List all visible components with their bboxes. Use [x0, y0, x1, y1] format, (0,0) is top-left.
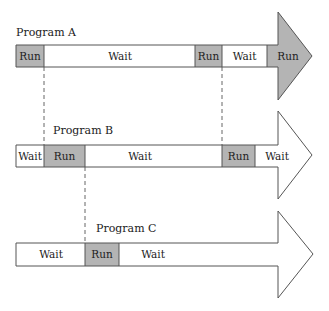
- segment-label: Wait: [265, 150, 289, 162]
- program-c-label: Program C: [96, 222, 156, 235]
- program-b-label: Program B: [53, 124, 113, 137]
- segment-label: Run: [198, 50, 220, 62]
- program-c-timeline: Program C Wait Run Wait: [16, 211, 313, 298]
- segment-label: Wait: [18, 150, 42, 162]
- segment-label: Wait: [39, 248, 63, 260]
- program-b-timeline: Program B Wait Run Wait Run Wait: [16, 111, 312, 199]
- multiprogramming-diagram: Program A Run Wait Run Wait Run Program …: [0, 0, 329, 311]
- segment-label: Wait: [108, 50, 132, 62]
- segment-label: Wait: [141, 248, 165, 260]
- segment-label: Run: [228, 150, 250, 162]
- program-a-label: Program A: [16, 26, 77, 39]
- program-b-wait-2: [85, 145, 222, 167]
- segment-label: Run: [54, 150, 76, 162]
- program-a-timeline: Program A Run Wait Run Wait Run: [16, 12, 312, 100]
- segment-label: Wait: [233, 50, 257, 62]
- segment-label: Run: [91, 248, 113, 260]
- segment-label: Run: [19, 50, 41, 62]
- segment-label: Run: [277, 50, 299, 62]
- segment-label: Wait: [128, 150, 152, 162]
